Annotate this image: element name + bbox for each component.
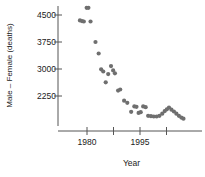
data-point xyxy=(101,69,105,73)
data-point xyxy=(113,71,117,75)
data-point xyxy=(134,105,138,109)
data-point xyxy=(106,72,110,76)
data-point xyxy=(86,6,90,10)
data-point xyxy=(88,19,92,23)
data-point xyxy=(129,110,133,114)
data-point xyxy=(181,117,185,121)
data-point xyxy=(97,51,101,55)
data-point xyxy=(139,110,143,114)
data-point xyxy=(144,105,148,109)
scatter-chart-figure: Male – Female (deaths) 4500 3750 3000 22… xyxy=(0,0,205,177)
data-point xyxy=(118,87,122,91)
data-point xyxy=(125,101,129,105)
data-point xyxy=(109,64,113,68)
data-point-group xyxy=(78,6,186,121)
data-point xyxy=(93,40,97,44)
data-point xyxy=(104,80,108,84)
plot-canvas xyxy=(0,0,205,177)
data-point xyxy=(82,19,86,23)
